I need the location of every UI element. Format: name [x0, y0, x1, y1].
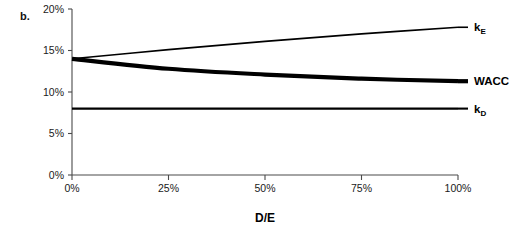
x-tick-label: 0%	[64, 182, 79, 194]
y-tick-label: 0%	[49, 169, 64, 181]
figure-panel: b. 0%5%10%15%20% 0%25%50%75%100% kEWACCk…	[0, 0, 519, 234]
y-axis: 0%5%10%15%20%	[43, 3, 72, 181]
y-tick-label: 15%	[43, 44, 64, 56]
series-label-kE: kE	[474, 21, 486, 36]
x-axis-title: D/E	[255, 211, 275, 225]
series-label-WACC: WACC	[474, 75, 509, 87]
series-line-kE	[72, 27, 458, 59]
y-tick-label: 10%	[43, 86, 64, 98]
x-axis-tick-labels: 0%25%50%75%100%	[64, 182, 471, 194]
x-tick-label: 100%	[445, 182, 472, 194]
y-tick-label: 5%	[49, 127, 64, 139]
y-axis-ticks	[68, 9, 72, 175]
data-series-group	[72, 27, 468, 108]
x-tick-label: 50%	[254, 182, 275, 194]
x-tick-label: 75%	[351, 182, 372, 194]
series-labels-group: kEWACCkD	[474, 21, 509, 117]
chart-canvas: 0%5%10%15%20% 0%25%50%75%100% kEWACCkD D…	[0, 0, 519, 234]
x-axis: 0%25%50%75%100%	[64, 175, 471, 194]
x-axis-ticks	[72, 175, 458, 180]
x-tick-label: 25%	[158, 182, 179, 194]
series-label-kD: kD	[474, 103, 486, 118]
y-axis-tick-labels: 0%5%10%15%20%	[43, 3, 64, 181]
y-tick-label: 20%	[43, 3, 64, 15]
series-line-WACC	[72, 59, 458, 81]
